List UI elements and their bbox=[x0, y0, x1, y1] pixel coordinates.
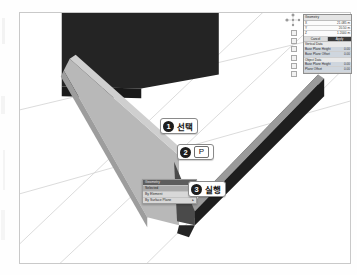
toolbar-button[interactable] bbox=[291, 30, 297, 36]
property-label: X bbox=[305, 21, 307, 25]
property-label: Base Plane Height bbox=[305, 62, 331, 66]
property-label: Z bbox=[305, 31, 307, 35]
property-label: Base Plane Offset bbox=[305, 52, 330, 56]
property-value: 21.085 m bbox=[337, 21, 350, 25]
context-menu-item-label: By Element bbox=[145, 192, 162, 197]
property-label: Base Plane Height bbox=[305, 47, 331, 51]
callout-label: 실행 bbox=[205, 183, 221, 195]
toolbar-button[interactable] bbox=[291, 38, 297, 44]
property-label: Plane Offset bbox=[305, 67, 322, 71]
toolbar-button[interactable] bbox=[291, 55, 297, 61]
context-menu-item-label: By Surface Plane bbox=[145, 198, 171, 203]
callout-label: 선택 bbox=[177, 120, 193, 132]
toolbar-button[interactable] bbox=[291, 71, 297, 77]
callout-badge-number: 2 bbox=[180, 147, 191, 158]
wall-panel-geometry bbox=[20, 13, 350, 263]
callout-badge-number: 1 bbox=[163, 121, 174, 132]
apply-button[interactable]: Apply bbox=[328, 37, 351, 42]
properties-panel[interactable]: Geometry X 21.085 m Y 20.50 m Z 1.2000 m… bbox=[303, 14, 352, 74]
scan-artifact bbox=[1, 210, 5, 240]
callout-step-2: 2 P bbox=[177, 144, 214, 160]
viewport-frame: Geometry Selected By Element ▸ By Surfac… bbox=[19, 12, 351, 264]
property-value: 0.00 bbox=[344, 52, 350, 56]
view-orientation-gizmo[interactable] bbox=[284, 13, 302, 29]
property-row[interactable]: Plane Offset 0.00 bbox=[304, 67, 351, 72]
property-value: 20.50 m bbox=[339, 26, 350, 30]
screenshot-stage: Geometry Selected By Element ▸ By Surfac… bbox=[0, 0, 357, 275]
callout-step-3: 3 실행 bbox=[188, 181, 226, 197]
property-value: 0.00 bbox=[344, 67, 350, 71]
property-label: Y bbox=[305, 26, 307, 30]
toolbar-button[interactable] bbox=[291, 63, 297, 69]
submenu-arrow-icon: ▸ bbox=[192, 198, 194, 203]
scan-artifact bbox=[1, 96, 5, 114]
scan-artifact bbox=[3, 150, 5, 190]
context-menu-item[interactable]: By Surface Plane ▸ bbox=[143, 197, 196, 203]
scan-artifact bbox=[2, 18, 5, 44]
property-value: 0.00 bbox=[344, 62, 350, 66]
context-menu-item-label: Selected bbox=[145, 186, 158, 191]
callout-badge-number: 3 bbox=[191, 184, 202, 195]
mini-toolbar[interactable] bbox=[291, 30, 297, 77]
keyboard-key-icon: P bbox=[194, 146, 209, 158]
property-value: 1.2000 m bbox=[337, 31, 350, 35]
toolbar-button[interactable] bbox=[291, 46, 297, 52]
callout-step-1: 1 선택 bbox=[160, 118, 198, 134]
property-value: 0.00 bbox=[344, 47, 350, 51]
cancel-button[interactable]: Cancel bbox=[304, 37, 328, 42]
